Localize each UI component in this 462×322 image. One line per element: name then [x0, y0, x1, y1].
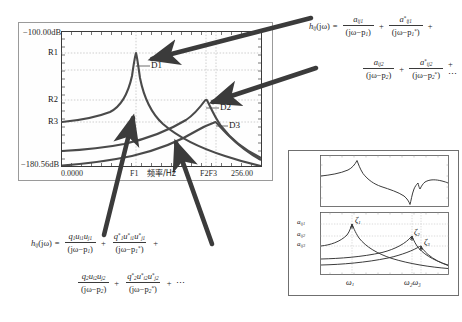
eq-tr-t2-den: (jω−p: [392, 27, 412, 37]
eq-tr-t1-den-sub: 1: [365, 32, 368, 38]
eq-bl-equals: =: [54, 238, 61, 248]
inset-y-label-a2-sub: ij2: [301, 233, 306, 238]
eq-bl-term2: q*1u*i1u*j1 (jω−p1*): [109, 231, 151, 255]
eq-tr-t1-den: (jω−p: [346, 27, 366, 37]
inset-y-label-a3: aij3: [297, 241, 305, 249]
eq-bl-t3-den-sub: 2: [101, 289, 104, 295]
peak-label-d1: D1: [151, 61, 162, 70]
eq-bl-ellipsis: + ⋯: [166, 278, 187, 288]
eq-tr-term3: aij2 (jω−p2): [361, 57, 396, 81]
x-axis-marker-f2f3: F2F3: [200, 170, 217, 178]
eq-bl-plus2: +: [152, 238, 159, 248]
eq-bl-term4: q*2u*i2u*j2 (jω−p2*): [122, 271, 164, 295]
eq-tr-plus2: +: [427, 21, 434, 31]
eq-tr-plus3: +: [398, 64, 405, 74]
inset-x-label-w1: ω1: [346, 279, 354, 288]
eq-tr-term1: aij1 (jω−p1): [341, 14, 376, 38]
eq-bl-t4-den: (jω−p: [129, 284, 149, 294]
inset-damping-1-sub: 1: [358, 220, 360, 225]
y-axis-top-label: −100.00dB: [23, 28, 61, 37]
y-gridline-label-r1: R1: [48, 48, 58, 57]
eq-bl-t2-u2-sub: j1: [141, 235, 145, 241]
eq-tr-t3-num-sub: ij2: [378, 61, 384, 67]
eq-bl-t3-u2-sub: j2: [101, 275, 105, 281]
inset-chart-outer-frame: [289, 151, 459, 296]
inset-y-label-a1-sub: ij1: [301, 221, 306, 226]
eq-tr-t3-den: (jω−p: [366, 70, 386, 80]
eq-tr-lhs-arg: (jω): [316, 21, 330, 31]
eq-tr-term2: a*ij1 (jω−p1*): [387, 14, 425, 38]
eq-bl-plus1: +: [100, 238, 107, 248]
eq-tr-ellipsis: + ⋯: [447, 59, 462, 79]
inset-x-label-w2w3: ω₂ω₃: [404, 279, 421, 287]
eq-tr-term4: a*ij2 (jω−p2*): [407, 57, 445, 81]
eq-tr-t1-num-sub: ij1: [358, 18, 364, 24]
y-gridline-label-r2: R2: [48, 95, 58, 104]
eq-tr-equals: =: [332, 21, 339, 31]
equation-top-right-line1: hij(jω) = aij1 (jω−p1) + a*ij1 (jω−p1*) …: [309, 14, 434, 38]
eq-tr-t3-den-sub: 2: [386, 75, 389, 81]
eq-bl-t4-u2-sub: j2: [155, 275, 159, 281]
peak-label-d2: D2: [220, 103, 231, 112]
eq-bl-term3: q2ui2uj2 (jω−p2): [76, 271, 111, 295]
eq-bl-plus3: +: [113, 278, 120, 288]
eq-bl-t1-den: (jω−p: [68, 244, 88, 254]
inset-damping-3-sub: 3: [427, 242, 429, 247]
equation-top-right-line2: aij2 (jω−p2) + a*ij2 (jω−p2*) + ⋯: [361, 57, 462, 81]
eq-bl-t2-den: (jω−p: [116, 244, 136, 254]
peak-label-d3: D3: [229, 121, 240, 130]
equation-bottom-left-line1: hij(jω) = q1ui1uj1 (jω−p1) + q*1u*i1u*j1…: [31, 231, 159, 255]
y-gridline-label-r3: R3: [48, 117, 58, 126]
inset-y-label-a1: aij1: [297, 219, 305, 227]
eq-bl-t3-den: (jω−p: [81, 284, 101, 294]
eq-bl-t1-u2-sub: j1: [88, 235, 92, 241]
figure-canvas: −100.00dB −180.56dB R1 R2 R3 0.0000 F1 频…: [0, 0, 462, 322]
inset-y-label-a3-sub: ij3: [301, 243, 306, 248]
inset-damping-2-sub: 2: [417, 232, 419, 237]
eq-tr-t4-den: (jω−p: [412, 70, 432, 80]
figure-svg: [0, 0, 462, 322]
x-axis-left-label: 0.0000: [61, 170, 83, 178]
inset-x-label-w1-sub: 1: [352, 282, 354, 287]
x-axis-title: 频率/Hz: [147, 170, 176, 178]
inset-damping-label-3: ζ3: [424, 239, 430, 248]
equation-bottom-left-line2: q2ui2uj2 (jω−p2) + q*2u*i2u*j2 (jω−p2*) …: [76, 271, 187, 295]
inset-damping-label-2: ζ2: [414, 229, 420, 238]
eq-bl-t1-den-sub: 1: [87, 249, 90, 255]
y-axis-bottom-label: −180.56dB: [21, 160, 59, 169]
x-axis-right-label: 256.00: [231, 170, 253, 178]
eq-bl-term1: q1ui1uj1 (jω−p1): [63, 231, 98, 255]
inset-damping-label-1: ζ1: [355, 217, 361, 226]
eq-tr-plus1: +: [378, 21, 385, 31]
eq-tr-t4-num-sub: ij2: [427, 61, 433, 67]
x-axis-marker-f1: F1: [130, 170, 138, 178]
inset-y-label-a2: aij2: [297, 231, 305, 239]
eq-bl-lhs-arg: (jω): [38, 238, 52, 248]
eq-tr-t2-num-sub: ij1: [406, 18, 412, 24]
